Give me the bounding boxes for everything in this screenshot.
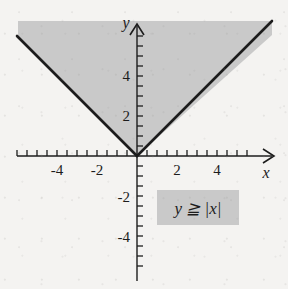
x-tick-label-neg2: -2	[91, 162, 104, 178]
coordinate-plane-svg: x y -4 -2 2 4 4 2 -2 -4 y ≧ |x|	[0, 0, 288, 289]
inequality-label: y ≧ |x|	[173, 199, 222, 218]
x-tick-label-neg4: -4	[51, 162, 64, 178]
inequality-annotation: y ≧ |x|	[157, 190, 239, 225]
x-tick-label-pos4: 4	[213, 162, 221, 178]
y-axis-label: y	[120, 14, 130, 32]
y-tick-label-pos4: 4	[123, 68, 131, 84]
y-tick-label-neg4: -4	[118, 229, 131, 245]
y-tick-label-neg2: -2	[118, 189, 131, 205]
x-tick-label-pos2: 2	[173, 162, 181, 178]
x-axis-label: x	[261, 164, 269, 181]
x-axis	[17, 149, 274, 163]
shaded-region-y-ge-abs-x	[18, 21, 272, 156]
inequality-graph-figure: x y -4 -2 2 4 4 2 -2 -4 y ≧ |x|	[0, 0, 288, 289]
y-tick-label-pos2: 2	[123, 108, 131, 124]
